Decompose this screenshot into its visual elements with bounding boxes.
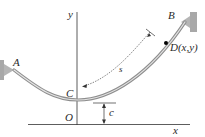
support-a [0,60,14,80]
catenary-diagram: A B C D(x,y) O x y s c [0,0,205,137]
point-d-marker [164,41,168,45]
label-s: s [119,64,123,74]
label-a: A [12,56,20,68]
arc-length-s [82,29,155,88]
cable [14,22,185,100]
label-o: O [65,111,73,123]
label-y-axis: y [67,8,73,20]
label-c-dim: c [109,106,114,118]
label-x-axis: x [172,124,178,136]
label-c-point: C [66,87,74,99]
label-b: B [168,9,175,21]
label-d: D(x,y) [169,41,198,54]
